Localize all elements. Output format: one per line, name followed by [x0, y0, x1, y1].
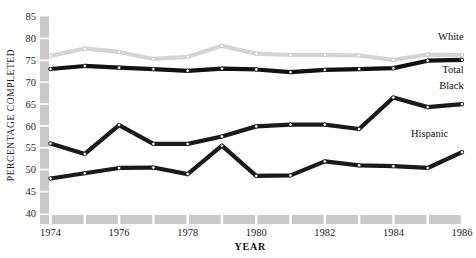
- y-tick-label-40: 40: [26, 208, 37, 219]
- y-axis-tick: [40, 147, 49, 149]
- y-tick-label-50: 50: [26, 164, 37, 175]
- data-point-white-1986: [460, 53, 463, 56]
- data-point-black-1978: [186, 142, 189, 145]
- x-axis-segment: [223, 215, 255, 224]
- x-tick-label-1986: 1986: [452, 227, 473, 238]
- x-tick-label-1974: 1974: [40, 227, 62, 238]
- x-tick-label-1982: 1982: [314, 227, 335, 238]
- y-axis-tick: [40, 37, 49, 39]
- x-axis-segment: [326, 215, 358, 224]
- x-axis-segment: [120, 215, 152, 224]
- data-point-hispanic-1983: [357, 164, 360, 167]
- data-point-total-1976: [117, 66, 120, 69]
- y-axis-tick: [40, 103, 49, 105]
- x-axis-segment: [292, 215, 324, 224]
- data-point-total-1978: [186, 69, 189, 72]
- data-point-total-1984: [392, 66, 395, 69]
- y-axis-tick: [40, 59, 49, 61]
- x-axis-segment: [155, 215, 187, 224]
- data-point-hispanic-1982: [323, 160, 326, 163]
- data-point-white-1980: [255, 52, 258, 55]
- series-line-hispanic: [51, 146, 463, 179]
- x-axis-segment: [429, 215, 461, 224]
- data-point-white-1976: [117, 50, 120, 53]
- data-point-black-1975: [83, 152, 86, 155]
- data-point-black-1974: [49, 142, 52, 145]
- data-point-total-1979: [220, 67, 223, 70]
- data-point-black-1985: [426, 105, 429, 108]
- y-axis-title: PERCENTAGE COMPLETED: [6, 49, 16, 181]
- data-point-black-1983: [357, 127, 360, 130]
- data-point-black-1976: [117, 123, 120, 126]
- data-point-hispanic-1979: [220, 144, 223, 147]
- data-point-white-1975: [83, 47, 86, 50]
- series-label-black: Black: [439, 80, 464, 91]
- data-point-hispanic-1976: [117, 166, 120, 169]
- data-point-hispanic-1986: [460, 151, 463, 154]
- data-point-total-1977: [152, 67, 155, 70]
- x-tick-label-1984: 1984: [383, 227, 405, 238]
- data-point-total-1974: [49, 67, 52, 70]
- data-point-hispanic-1984: [392, 165, 395, 168]
- data-point-white-1974: [49, 54, 52, 57]
- data-point-hispanic-1980: [255, 174, 258, 177]
- y-axis-tick: [40, 191, 49, 193]
- y-axis-band: [40, 17, 49, 214]
- x-axis-segment: [360, 215, 392, 224]
- data-point-total-1982: [323, 68, 326, 71]
- data-point-white-1983: [357, 54, 360, 57]
- data-point-white-1982: [323, 53, 326, 56]
- series-label-white: White: [438, 31, 464, 42]
- x-axis-segment: [395, 215, 427, 224]
- data-point-black-1986: [460, 102, 463, 105]
- y-tick-label-60: 60: [26, 121, 37, 132]
- y-axis-tick: [40, 81, 49, 83]
- y-tick-label-70: 70: [26, 77, 37, 88]
- data-point-black-1981: [289, 123, 292, 126]
- chart-container: 4045505560657075808519741976197819801982…: [0, 0, 476, 258]
- x-axis-segment: [52, 215, 84, 224]
- data-point-total-1981: [289, 70, 292, 73]
- data-point-black-1982: [323, 123, 326, 126]
- data-point-white-1984: [392, 58, 395, 61]
- y-tick-label-55: 55: [26, 142, 37, 153]
- y-tick-label-45: 45: [26, 186, 37, 197]
- data-point-black-1979: [220, 135, 223, 138]
- x-axis-segment: [189, 215, 221, 224]
- data-point-hispanic-1978: [186, 172, 189, 175]
- data-point-black-1980: [255, 125, 258, 128]
- x-tick-label-1976: 1976: [109, 227, 130, 238]
- data-point-black-1984: [392, 96, 395, 99]
- x-axis-segment: [86, 215, 118, 224]
- y-axis-tick: [40, 125, 49, 127]
- data-point-white-1978: [186, 55, 189, 58]
- data-point-hispanic-1977: [152, 166, 155, 169]
- data-point-total-1983: [357, 67, 360, 70]
- y-tick-label-65: 65: [26, 99, 37, 110]
- data-point-white-1979: [220, 44, 223, 47]
- y-axis-tick: [40, 169, 49, 171]
- y-tick-label-80: 80: [26, 33, 37, 44]
- x-tick-label-1980: 1980: [246, 227, 267, 238]
- x-axis-segment: [257, 215, 289, 224]
- x-tick-label-1978: 1978: [177, 227, 198, 238]
- data-point-hispanic-1985: [426, 166, 429, 169]
- data-point-hispanic-1981: [289, 174, 292, 177]
- y-tick-label-85: 85: [26, 11, 37, 22]
- series-label-total: Total: [442, 64, 464, 75]
- line-chart: 4045505560657075808519741976197819801982…: [0, 0, 476, 258]
- data-point-black-1977: [152, 142, 155, 145]
- axis-corner: [40, 215, 49, 224]
- data-point-white-1977: [152, 57, 155, 60]
- data-point-white-1985: [426, 53, 429, 56]
- data-point-hispanic-1974: [49, 177, 52, 180]
- data-point-total-1980: [255, 68, 258, 71]
- x-axis-title: YEAR: [234, 241, 266, 252]
- data-point-white-1981: [289, 53, 292, 56]
- y-tick-label-75: 75: [26, 55, 37, 66]
- data-point-total-1975: [83, 64, 86, 67]
- data-point-total-1985: [426, 59, 429, 62]
- data-point-total-1986: [460, 58, 463, 61]
- data-point-hispanic-1975: [83, 172, 86, 175]
- series-label-hispanic: Hispanic: [411, 128, 449, 139]
